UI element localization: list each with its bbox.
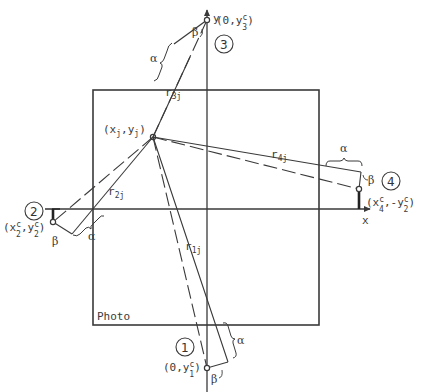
svg-text:β: β bbox=[52, 235, 58, 248]
svg-text:2: 2 bbox=[30, 205, 38, 219]
svg-text:3: 3 bbox=[220, 38, 228, 52]
svg-text:(0,yc3): (0,yc3) bbox=[216, 13, 254, 32]
ray-r4j-dashed bbox=[153, 137, 359, 189]
svg-text:r2j: r2j bbox=[108, 185, 124, 200]
svg-text:r1j: r1j bbox=[185, 240, 201, 255]
camera-4-alpha-brace bbox=[326, 158, 362, 166]
svg-text:(xj,yj): (xj,yj) bbox=[103, 123, 146, 138]
svg-text:1: 1 bbox=[181, 341, 189, 355]
ray-r4j-solid bbox=[153, 137, 361, 172]
svg-text:α: α bbox=[88, 230, 96, 243]
svg-text:r4j: r4j bbox=[271, 148, 287, 163]
camera-triangulation-diagram: Photo y x (xj,yj) α β (0,yc3) 3 r3j α bbox=[0, 0, 421, 392]
camera-1: α β (0,yc1) 1 r1j bbox=[153, 137, 245, 386]
svg-text:(0,yc1): (0,yc1) bbox=[163, 360, 201, 379]
svg-text:α: α bbox=[340, 142, 348, 155]
svg-text:α: α bbox=[237, 334, 245, 347]
camera-3: α β (0,yc3) 3 r3j bbox=[150, 13, 254, 137]
svg-text:r3j: r3j bbox=[165, 86, 181, 101]
camera-2: α β (xc2,yc2) 2 r2j bbox=[3, 137, 153, 248]
svg-text:β: β bbox=[211, 373, 217, 386]
x-axis-label: x bbox=[362, 214, 369, 227]
svg-text:β: β bbox=[368, 174, 374, 187]
svg-text:β: β bbox=[192, 26, 198, 39]
svg-text:(xc4,-yc2): (xc4,-yc2) bbox=[366, 195, 415, 214]
photo-label: Photo bbox=[97, 310, 130, 323]
svg-text:α: α bbox=[150, 52, 158, 65]
target-point-j: (xj,yj) bbox=[103, 123, 156, 140]
svg-text:4: 4 bbox=[387, 175, 395, 189]
camera-4: α β (xc4,-yc2) 4 r4j bbox=[153, 137, 415, 214]
svg-text:(xc2,yc2): (xc2,yc2) bbox=[3, 220, 45, 239]
